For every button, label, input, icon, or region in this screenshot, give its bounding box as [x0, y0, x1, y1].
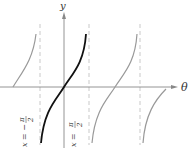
y-axis-label: y	[59, 0, 66, 11]
svg-text:π: π	[18, 117, 26, 123]
curve-left-branch	[13, 34, 36, 87]
svg-text:x =: x =	[69, 133, 78, 147]
x-axis-label: θ	[181, 81, 188, 94]
asymptote-right-label: x = π 2	[67, 121, 84, 147]
svg-text:π: π	[67, 122, 75, 128]
svg-text:x = −: x = −	[20, 124, 29, 147]
svg-text:2: 2	[27, 117, 35, 123]
svg-text:2: 2	[76, 122, 84, 128]
x-axis-arrow-icon	[171, 85, 178, 89]
y-axis-arrow-icon	[62, 12, 66, 19]
tangent-graph: y θ x = − π 2 x = π 2	[0, 0, 190, 161]
asymptote-left-label: x = − π 2	[18, 116, 35, 147]
curve-far-right-branch	[143, 89, 166, 143]
curve-right-branch	[92, 34, 137, 143]
